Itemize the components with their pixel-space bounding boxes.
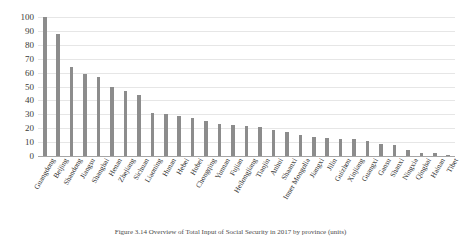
bar xyxy=(97,77,101,156)
y-axis-tick-label: 50 xyxy=(25,82,34,91)
bar xyxy=(420,153,424,156)
bar xyxy=(204,121,208,156)
y-axis-tick-label: 20 xyxy=(25,124,34,133)
y-axis-tick-label: 30 xyxy=(25,110,34,119)
chart-figure: 0102030405060708090100 GuangdongBeijingS… xyxy=(0,0,461,238)
bar xyxy=(164,114,168,156)
bar xyxy=(43,17,47,156)
bar xyxy=(70,67,74,156)
plot-area xyxy=(38,17,455,156)
bar xyxy=(231,125,235,156)
y-axis-tick-label: 60 xyxy=(25,68,34,77)
bar xyxy=(433,153,437,156)
bar xyxy=(258,127,262,156)
bar xyxy=(56,34,60,156)
bar xyxy=(325,138,329,156)
y-axis-tick-label: 70 xyxy=(25,54,34,63)
y-axis-tick-label: 100 xyxy=(21,13,35,22)
bar xyxy=(352,139,356,156)
bar xyxy=(379,144,383,157)
bar-series xyxy=(38,17,455,156)
x-axis-tick-label: Tibet xyxy=(446,157,461,174)
bar xyxy=(177,116,181,156)
bar xyxy=(393,145,397,156)
y-axis-tick-label: 0 xyxy=(30,152,35,161)
x-axis-labels: GuangdongBeijingShandongJiangsuShanghaiH… xyxy=(38,157,455,223)
bar xyxy=(285,132,289,156)
bar xyxy=(83,74,87,156)
y-axis-tick-label: 10 xyxy=(25,138,34,147)
bar xyxy=(446,155,450,156)
bar xyxy=(366,141,370,156)
y-axis-tick-label: 80 xyxy=(25,40,34,49)
y-axis-tick-label: 40 xyxy=(25,96,34,105)
y-axis-labels: 0102030405060708090100 xyxy=(0,17,34,156)
bar xyxy=(339,139,343,156)
bar xyxy=(312,137,316,156)
bar xyxy=(110,87,114,157)
bar xyxy=(137,95,141,156)
bar xyxy=(299,135,303,156)
bar xyxy=(191,118,195,156)
figure-caption: Figure 3.14 Overview of Total Input of S… xyxy=(0,228,461,237)
bar xyxy=(218,124,222,156)
bar xyxy=(272,130,276,156)
bar xyxy=(124,91,128,156)
y-axis-tick-label: 90 xyxy=(25,26,34,35)
bar xyxy=(151,113,155,156)
bar xyxy=(406,150,410,156)
bar xyxy=(245,126,249,156)
